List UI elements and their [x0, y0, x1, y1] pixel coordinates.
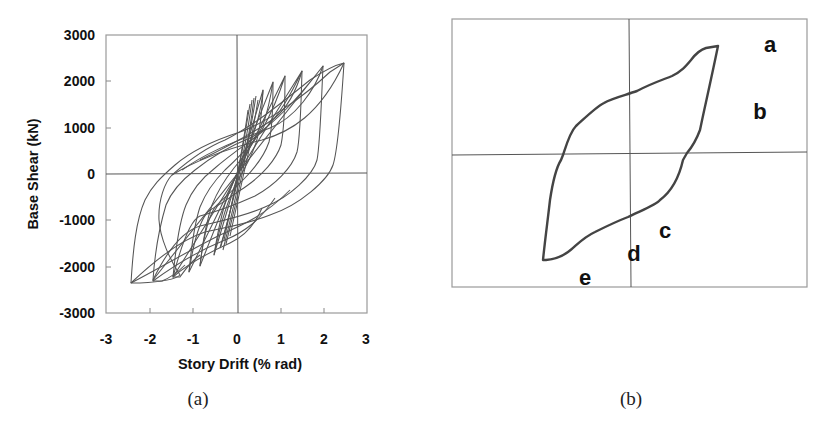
y-tick-label: -2000	[59, 259, 95, 275]
chart-b: a b c d e (b)	[452, 19, 807, 410]
figure: 3000 2000 1000 0 -1000 -2000 -3000 -3 -2…	[0, 0, 828, 431]
chart-a-y-axis-label: Base Shear (kN)	[25, 118, 41, 229]
chart-a-x-ticks	[150, 308, 324, 313]
x-tick-label: 2	[320, 331, 328, 347]
chart-a-x-axis-label: Story Drift (% rad)	[178, 356, 302, 372]
point-label-b: b	[753, 99, 766, 124]
point-label-e: e	[579, 265, 591, 290]
chart-b-point-labels: a b c d e	[579, 32, 777, 290]
y-tick-label: 3000	[64, 27, 95, 43]
chart-a-x-tick-labels: -3 -2 -1 0 1 2 3	[100, 331, 370, 347]
x-tick-label: 3	[362, 331, 370, 347]
y-tick-label: 2000	[64, 73, 95, 89]
x-tick-label: -1	[187, 331, 200, 347]
x-tick-label: 0	[233, 331, 241, 347]
chart-a: 3000 2000 1000 0 -1000 -2000 -3000 -3 -2…	[25, 27, 370, 410]
x-tick-label: 1	[277, 331, 285, 347]
chart-b-caption: (b)	[620, 388, 642, 410]
point-label-a: a	[764, 32, 777, 57]
chart-a-y-tick-labels: 3000 2000 1000 0 -1000 -2000 -3000	[59, 27, 95, 321]
y-tick-label: -3000	[59, 305, 95, 321]
point-label-c: c	[659, 218, 671, 243]
x-tick-label: -3	[100, 331, 113, 347]
y-tick-label: 1000	[64, 120, 95, 136]
x-tick-label: -2	[144, 331, 157, 347]
y-tick-label: -1000	[59, 212, 95, 228]
y-tick-label: 0	[87, 166, 95, 182]
chart-a-caption: (a)	[187, 388, 208, 410]
point-label-d: d	[627, 241, 640, 266]
